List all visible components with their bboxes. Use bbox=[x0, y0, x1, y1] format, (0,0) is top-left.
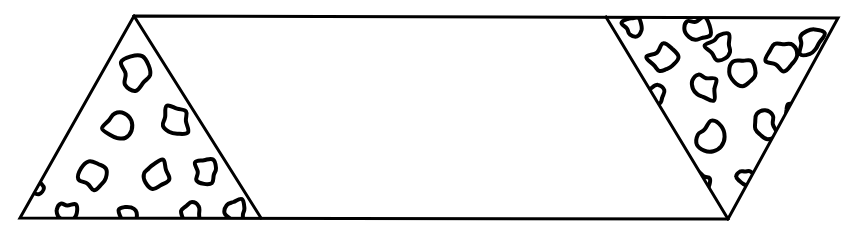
figure-container bbox=[0, 0, 845, 246]
figure-drawing bbox=[0, 0, 845, 246]
